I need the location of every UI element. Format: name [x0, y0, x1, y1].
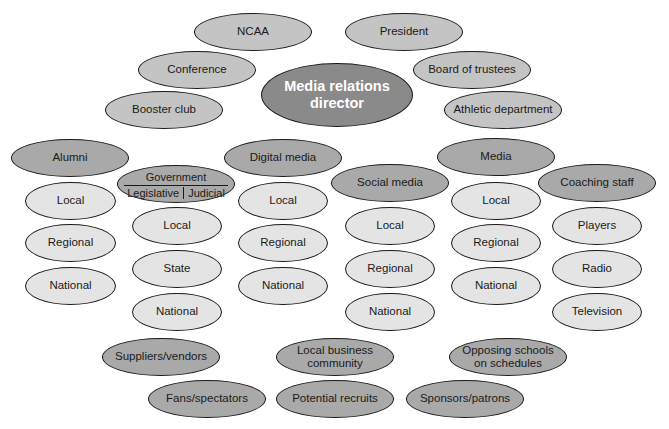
node-digital-media: Digital media — [224, 139, 342, 177]
node-label: Athletic department — [453, 103, 552, 116]
node-label: Potential recruits — [292, 392, 378, 405]
node-board-of-trustees: Board of trustees — [413, 51, 531, 89]
node-label: National — [262, 279, 304, 292]
node-label: NCAA — [237, 25, 269, 38]
node-media-relations-director: Media relations director — [261, 63, 413, 127]
node-government: Government Legislative Judicial — [117, 165, 235, 203]
node-label: Conference — [167, 63, 226, 76]
node-coaching-radio: Radio — [552, 250, 642, 288]
node-suppliers-vendors: Suppliers/vendors — [102, 338, 220, 376]
node-label: Government — [146, 171, 207, 184]
branch-judicial: Judicial — [183, 187, 229, 200]
node-fans-spectators: Fans/spectators — [148, 380, 266, 418]
node-label: National — [156, 305, 198, 318]
node-athletic-department: Athletic department — [444, 91, 562, 129]
node-label: Opposing schools on schedules — [460, 344, 556, 370]
node-label: Board of trustees — [428, 63, 516, 76]
node-coaching-television: Television — [552, 293, 642, 331]
node-label: Digital media — [250, 151, 316, 164]
node-booster-club: Booster club — [105, 91, 223, 129]
node-label: State — [164, 262, 191, 275]
node-government-local: Local — [132, 207, 222, 245]
node-opposing-schools: Opposing schools on schedules — [449, 338, 567, 376]
node-label: Sponsors/patrons — [420, 392, 510, 405]
node-president: President — [345, 13, 463, 51]
node-label: Media relations director — [262, 78, 412, 113]
node-digital-local: Local — [238, 182, 328, 220]
node-label: Booster club — [132, 103, 196, 116]
node-sponsors-patrons: Sponsors/patrons — [406, 380, 524, 418]
node-social-regional: Regional — [345, 250, 435, 288]
node-coaching-staff: Coaching staff — [538, 164, 656, 202]
node-label: Local — [482, 194, 510, 207]
node-ncaa: NCAA — [194, 13, 312, 51]
node-social-local: Local — [345, 207, 435, 245]
node-label: Suppliers/vendors — [115, 350, 207, 363]
node-label: Alumni — [52, 151, 87, 164]
node-label: Regional — [48, 236, 93, 249]
node-alumni-national: National — [25, 267, 116, 305]
node-label: Fans/spectators — [166, 392, 248, 405]
node-digital-national: National — [238, 267, 328, 305]
divider — [124, 185, 228, 186]
node-label: National — [475, 279, 517, 292]
node-local-business-community: Local business community — [276, 338, 394, 376]
node-government-state: State — [132, 250, 222, 288]
government-branches: Legislative Judicial — [123, 187, 229, 200]
branch-legislative: Legislative — [123, 187, 183, 200]
node-label: Local — [57, 194, 85, 207]
node-potential-recruits: Potential recruits — [276, 380, 394, 418]
node-label: Social media — [357, 176, 423, 189]
node-social-media: Social media — [331, 164, 449, 202]
node-label: Regional — [473, 236, 518, 249]
node-label: Local — [376, 219, 404, 232]
node-label: Local business community — [293, 344, 377, 370]
node-coaching-players: Players — [552, 207, 642, 245]
node-social-national: National — [345, 293, 435, 331]
node-label: Local — [163, 219, 191, 232]
node-label: Local — [269, 194, 297, 207]
node-media: Media — [437, 138, 555, 176]
node-label: National — [369, 305, 411, 318]
node-label: National — [49, 279, 91, 292]
node-alumni-regional: Regional — [25, 224, 116, 262]
node-label: Coaching staff — [560, 176, 633, 189]
node-label: Players — [578, 219, 616, 232]
node-label: Radio — [582, 262, 612, 275]
node-digital-regional: Regional — [238, 224, 328, 262]
node-label: Regional — [260, 236, 305, 249]
node-label: President — [380, 25, 429, 38]
node-media-local: Local — [451, 182, 541, 220]
node-conference: Conference — [138, 51, 256, 89]
node-label: Regional — [367, 262, 412, 275]
node-label: Media — [480, 150, 511, 163]
node-media-national: National — [451, 267, 541, 305]
node-alumni-local: Local — [25, 182, 116, 220]
node-media-regional: Regional — [451, 224, 541, 262]
node-alumni: Alumni — [11, 139, 129, 177]
node-label: Television — [572, 305, 623, 318]
node-government-national: National — [132, 293, 222, 331]
